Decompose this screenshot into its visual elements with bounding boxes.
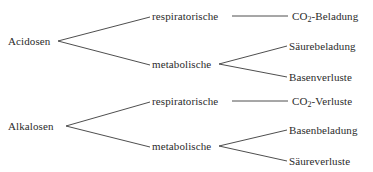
node-co2-beladung-subscript: 2 — [307, 15, 311, 24]
node-alkalosen-metabolische: metabolische — [152, 140, 211, 152]
node-basenverluste-label: Basenverluste — [289, 71, 352, 83]
edge-alkalosen-to-metabolische — [66, 126, 150, 147]
node-co2-beladung-prefix: CO — [292, 10, 307, 22]
node-acidosen-respiratorische: respiratorische — [152, 10, 218, 22]
node-co2-verluste-prefix: CO — [292, 95, 307, 107]
node-alkalosen-metabolische-label: metabolische — [152, 140, 211, 152]
edge-alkalosen-metabolische-to-saeureverluste — [219, 146, 287, 161]
node-alkalosen: Alkalosen — [8, 120, 54, 132]
node-acidosen-metabolische-label: metabolische — [152, 58, 211, 70]
node-acidosen-respiratorische-label: respiratorische — [152, 10, 218, 22]
node-co2-verluste-subscript: 2 — [307, 100, 311, 109]
node-saeureverluste-label: Säureverluste — [289, 155, 350, 167]
edge-acidosen-to-respiratorische — [58, 17, 150, 41]
node-alkalosen-basenbeladung: Basenbeladung — [289, 124, 358, 136]
node-alkalosen-respiratorische-label: respiratorische — [152, 95, 218, 107]
node-alkalosen-label: Alkalosen — [8, 120, 54, 132]
node-alkalosen-saeureverluste: Säureverluste — [289, 155, 350, 167]
node-acidosen-label: Acidosen — [8, 35, 50, 47]
node-basenbeladung-label: Basenbeladung — [289, 124, 358, 136]
node-acidosen: Acidosen — [8, 35, 50, 47]
node-co2-beladung-suffix: -Beladung — [312, 10, 359, 22]
node-acidosen-basenverluste: Basenverluste — [289, 71, 352, 83]
edge-acidosen-to-metabolische — [58, 41, 150, 65]
node-alkalosen-co2-verluste: CO2-Verluste — [292, 95, 352, 107]
diagram-canvas: Acidosen Alkalosen respiratorische metab… — [0, 0, 373, 172]
node-alkalosen-respiratorische: respiratorische — [152, 95, 218, 107]
edge-acidosen-metabolische-to-basenverluste — [219, 64, 287, 77]
edge-alkalosen-to-respiratorische — [66, 102, 150, 126]
node-acidosen-metabolische: metabolische — [152, 58, 211, 70]
edge-alkalosen-metabolische-to-basenbeladung — [219, 130, 287, 146]
node-acidosen-co2-beladung: CO2-Beladung — [292, 10, 358, 22]
edge-acidosen-metabolische-to-saeurebeladung — [219, 46, 287, 64]
node-co2-verluste-suffix: -Verluste — [312, 95, 353, 107]
node-acidosen-saeurebeladung: Säurebeladung — [289, 40, 356, 52]
node-saeurebeladung-label: Säurebeladung — [289, 40, 356, 52]
